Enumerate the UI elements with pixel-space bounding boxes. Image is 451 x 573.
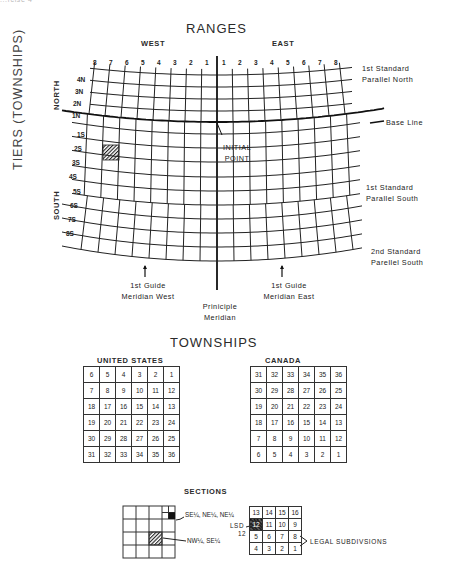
canada-section-cell: 11 xyxy=(315,431,331,447)
range-line-north xyxy=(248,69,249,122)
range-number-west: 2 xyxy=(189,59,193,66)
tier-number-south: 5S xyxy=(73,188,81,195)
guide-meridian-west-arrow-head xyxy=(143,265,147,269)
range-line-north xyxy=(121,66,125,118)
us-section-cell: 12 xyxy=(164,383,180,399)
us-section-cell: 15 xyxy=(132,399,148,415)
range-line-south xyxy=(134,119,136,201)
range-number-east: 6 xyxy=(302,59,306,66)
us-section-cell: 19 xyxy=(84,415,100,431)
canada-section-cell: 8 xyxy=(267,431,283,447)
se-ne-ne-quarter-fill xyxy=(169,513,176,520)
lsd-cell: 4 xyxy=(250,543,263,555)
lsd-cell: 2 xyxy=(276,543,289,555)
grid-row: 302928272625 xyxy=(84,431,180,447)
us-section-cell: 6 xyxy=(84,367,100,383)
parallel-line xyxy=(72,165,360,177)
lsd-cell: 1 xyxy=(289,543,302,555)
range-number-east: 4 xyxy=(270,59,274,66)
tier-number-north: 4N xyxy=(77,76,85,83)
lsd-cell: 14 xyxy=(263,507,276,519)
lsd-cell: 3 xyxy=(263,543,276,555)
grid-row: 654321 xyxy=(251,447,347,463)
canada-section-cell: 35 xyxy=(315,367,331,383)
grid-row: 789101112 xyxy=(84,383,180,399)
us-section-cell: 26 xyxy=(148,431,164,447)
us-section-cell: 22 xyxy=(132,415,148,431)
range-line-north xyxy=(309,66,313,118)
range-line-north xyxy=(201,69,202,122)
canada-section-cell: 26 xyxy=(315,383,331,399)
us-section-cell: 8 xyxy=(100,383,116,399)
grid-row: 13141516 xyxy=(250,507,302,519)
sps1-line1: 1st Standard xyxy=(366,183,418,194)
range-line-north xyxy=(137,67,141,119)
lsd-cell: 13 xyxy=(250,507,263,519)
tier-number-south: 3S xyxy=(72,159,80,166)
range-line-north xyxy=(339,63,345,114)
tier-number-south: 4S xyxy=(69,173,77,180)
lsd-cell: 5 xyxy=(250,531,263,543)
gmw-line1: 1st Guide xyxy=(108,281,188,292)
lsd-cell: 8 xyxy=(289,531,302,543)
lsd-number: 12 xyxy=(238,530,246,537)
range-number-east: 2 xyxy=(238,59,242,66)
canada-township-grid: 3132333435363029282726251920212223241817… xyxy=(250,366,347,463)
survey-grid xyxy=(0,0,451,340)
grid-row: 192021222324 xyxy=(84,415,180,431)
canada-section-cell: 2 xyxy=(315,447,331,463)
gme-line2: Meridian East xyxy=(249,292,329,303)
canada-section-cell: 21 xyxy=(283,399,299,415)
tier-number-south: 2S xyxy=(74,145,82,152)
standard-parallel-south-2-label: 2nd Standard Parellel South xyxy=(371,247,423,268)
us-section-cell: 30 xyxy=(84,431,100,447)
grid-row: 313233343536 xyxy=(84,447,180,463)
range-number-east: 5 xyxy=(286,59,290,66)
range-number-east: 8 xyxy=(334,59,338,66)
guide-meridian-west-label: 1st Guide Meridian West xyxy=(108,281,188,302)
tier-number-south: 6S xyxy=(70,202,78,209)
us-section-cell: 35 xyxy=(148,447,164,463)
canada-section-cell: 18 xyxy=(251,415,267,431)
tier-number-north: 3N xyxy=(75,88,83,95)
range-line-north xyxy=(294,67,298,119)
us-section-cell: 34 xyxy=(132,447,148,463)
us-section-cell: 14 xyxy=(148,399,164,415)
range-line-south xyxy=(151,120,153,203)
us-section-cell: 4 xyxy=(116,367,132,383)
us-section-cell: 24 xyxy=(164,415,180,431)
range-line-south xyxy=(298,119,300,201)
us-section-cell: 27 xyxy=(132,431,148,447)
highlighted-township-2s-7w xyxy=(103,145,119,160)
grid-row: 181716151413 xyxy=(84,399,180,415)
quarter-label-se-ne-ne: SE¼, NE¼, NE¼ xyxy=(185,511,234,518)
legal-subdivisions-label: LEGAL SUBDIVSIONS xyxy=(310,538,387,545)
canada-section-cell: 27 xyxy=(299,383,315,399)
quarter-label-nw-se: NW¼, SE¼ xyxy=(187,537,220,544)
tier-number-north: 1N xyxy=(72,112,80,119)
range-line-south xyxy=(200,205,201,261)
canada-section-cell: 31 xyxy=(251,367,267,383)
range-line-north xyxy=(185,69,186,122)
range-line-south xyxy=(233,205,234,261)
grid-row: 789101112 xyxy=(251,431,347,447)
range-line-south xyxy=(330,116,333,198)
us-section-cell: 9 xyxy=(116,383,132,399)
range-line-north xyxy=(89,63,95,114)
canada-section-cell: 5 xyxy=(267,447,283,463)
initial-point-label: INITIAL POINT xyxy=(223,143,251,164)
canada-section-cell: 9 xyxy=(283,431,299,447)
us-section-cell: 3 xyxy=(132,367,148,383)
townships-title: TOWNSHIPS xyxy=(170,335,258,350)
lsd-cell: 6 xyxy=(263,531,276,543)
range-line-south xyxy=(314,117,316,199)
us-section-cell: 2 xyxy=(148,367,164,383)
canada-section-cell: 12 xyxy=(331,431,347,447)
principal-meridian-label: Priniciple Meridian xyxy=(190,302,250,323)
range-line-south xyxy=(347,114,350,195)
grid-row: 4321 xyxy=(250,543,302,555)
spn-line1: 1st Standard xyxy=(362,64,413,75)
range-line-north xyxy=(263,68,265,121)
us-section-cell: 17 xyxy=(100,399,116,415)
grid-row: 5678 xyxy=(250,531,302,543)
